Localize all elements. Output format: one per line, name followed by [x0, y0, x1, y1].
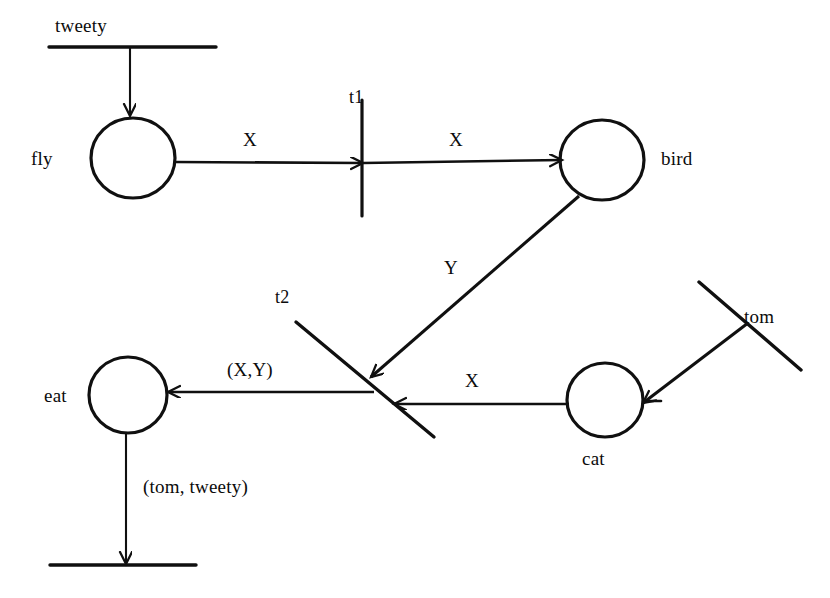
label-cat: cat [582, 449, 605, 468]
graph-svg [0, 0, 830, 598]
place-cat [567, 363, 643, 437]
place-bird [560, 120, 644, 200]
label-arc-x-left: X [243, 130, 257, 149]
label-tweety: tweety [55, 16, 107, 35]
label-arc-x-right: X [449, 130, 463, 149]
edge-t1-to-bird [363, 160, 562, 163]
edge-bird-to-t2 [371, 196, 579, 377]
place-fly [91, 118, 175, 198]
label-arc-tom-tweety-pair: (tom, tweety) [143, 477, 248, 496]
label-eat: eat [44, 386, 67, 405]
label-fly: fly [31, 149, 53, 168]
label-t2: t2 [275, 288, 289, 306]
diagram-canvas: tweety fly t1 bird X X Y t2 tom eat (X,Y… [0, 0, 830, 598]
edge-tom-to-cat [643, 323, 748, 403]
label-tom: tom [744, 307, 774, 326]
label-arc-xy-pair: (X,Y) [227, 360, 273, 379]
label-arc-x-cat: X [465, 371, 479, 390]
label-t1: t1 [349, 88, 363, 106]
label-bird: bird [661, 149, 692, 168]
place-eat [89, 357, 167, 433]
label-arc-y: Y [444, 258, 458, 277]
edge-fly-to-t1 [175, 162, 363, 163]
